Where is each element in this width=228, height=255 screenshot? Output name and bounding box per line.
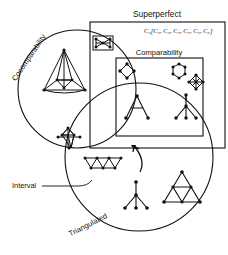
- spider-tree-graph: [174, 93, 197, 119]
- curved-arrow: [131, 145, 142, 172]
- comparability-boundary: [116, 58, 203, 136]
- superperfect-label: Superperfect: [133, 9, 182, 19]
- c4-diamond-graph: [118, 62, 135, 79]
- zigzag-path-graph: [84, 157, 123, 170]
- triangulated-label: Triangulated: [67, 211, 108, 238]
- interval-label: Interval: [12, 181, 37, 190]
- comparability-label: Comparability: [136, 48, 183, 57]
- graph-class-venn-diagram: Superperfect Comparability Cocomparabili…: [0, 0, 228, 255]
- superperfect-notation: C₆[C₆, C₆, C₆, C₆, C₆, C₆]: [144, 27, 213, 35]
- double-diamond-graph: [187, 73, 204, 90]
- sun-triangle-graph: [162, 170, 202, 204]
- nested-triangle-graph: [42, 48, 86, 93]
- tree-a-graph: [124, 94, 150, 120]
- notation-expression: C₆[C₆, C₆, C₆, C₆, C₆, C₆]: [144, 27, 213, 35]
- interval-leader-line: [42, 180, 92, 186]
- triangulated-boundary: [65, 83, 213, 231]
- diagram-canvas: Superperfect Comparability Cocomparabili…: [0, 0, 228, 255]
- hexagon-graph: [172, 63, 187, 80]
- star-tree-graph: [123, 180, 149, 210]
- bowtie-graph: [93, 36, 113, 50]
- cocomparability-label: Cocomparability: [10, 32, 48, 82]
